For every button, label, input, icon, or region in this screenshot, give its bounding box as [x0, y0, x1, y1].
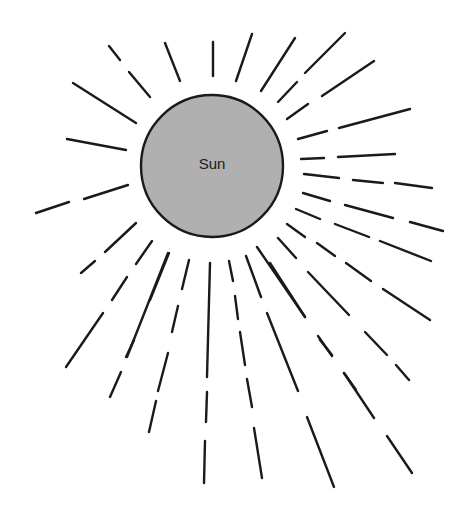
ray-segment [66, 313, 103, 367]
ray-segment [410, 222, 443, 231]
sun-ray [304, 174, 432, 188]
ray-segment [287, 104, 308, 119]
ray-segment [207, 263, 210, 377]
ray-segment [206, 392, 207, 422]
ray-segment [229, 261, 233, 281]
sun-ray [287, 104, 308, 119]
ray-segment [304, 174, 339, 178]
sun-ray [303, 193, 443, 231]
ray-segment [303, 193, 330, 201]
ray-segment [129, 72, 150, 97]
sun-ray [204, 263, 210, 483]
ray-segment [204, 441, 205, 483]
ray-segment [278, 238, 296, 258]
ray-segment [150, 253, 169, 300]
ray-segment [383, 289, 430, 320]
ray-segment [353, 180, 383, 183]
ray-segment [110, 372, 121, 397]
ray-segment [305, 33, 345, 73]
ray-segment [257, 247, 305, 317]
ray-segment [346, 263, 371, 281]
ray-segment [81, 261, 95, 273]
sun-ray [246, 256, 334, 487]
ray-segment [365, 332, 387, 355]
sun-ray [81, 223, 136, 273]
ray-segment [338, 154, 395, 157]
ray-segment [235, 296, 238, 319]
ray-segment [345, 205, 393, 218]
sun-label: Sun [162, 155, 262, 172]
ray-segment [67, 139, 126, 150]
ray-segment [165, 43, 180, 81]
ray-segment [136, 241, 152, 264]
ray-segment [267, 313, 298, 391]
ray-segment [261, 38, 295, 91]
ray-segment [278, 82, 297, 102]
sun-ray [270, 263, 356, 390]
ray-segment [240, 332, 245, 365]
ray-segment [182, 260, 189, 289]
ray-segment [344, 373, 374, 418]
sun-ray [261, 38, 295, 91]
ray-segment [335, 224, 369, 237]
ray-segment [254, 428, 262, 478]
sun-ray [67, 139, 126, 150]
ray-segment [287, 224, 305, 237]
ray-segment [322, 61, 374, 96]
ray-segment [380, 241, 431, 261]
sun-rays-diagram [0, 0, 470, 515]
ray-segment [172, 306, 178, 332]
ray-segment [307, 417, 334, 487]
ray-segment [112, 277, 127, 300]
ray-segment [387, 436, 412, 473]
sun-ray [150, 253, 169, 300]
sun-ray [296, 209, 431, 261]
ray-segment [149, 401, 156, 432]
sun-ray [278, 33, 345, 102]
ray-segment [247, 379, 252, 407]
sun-ray [322, 61, 374, 96]
ray-segment [109, 46, 120, 60]
sun-ray [229, 261, 262, 478]
ray-segment [339, 109, 410, 128]
sun-ray [109, 46, 150, 97]
sun-ray [298, 109, 410, 139]
ray-segment [298, 131, 327, 139]
ray-segment [395, 183, 432, 188]
ray-segment [36, 202, 69, 213]
sun-ray [73, 83, 136, 123]
sun-ray [278, 238, 409, 380]
ray-segment [308, 272, 349, 315]
ray-segment [396, 365, 409, 380]
ray-segment [84, 185, 128, 199]
ray-segment [317, 243, 335, 256]
ray-segment [236, 34, 252, 81]
ray-segment [158, 353, 168, 391]
ray-segment [301, 158, 324, 159]
sun-ray [257, 247, 412, 473]
sun-ray [66, 241, 152, 367]
ray-segment [73, 83, 136, 123]
sun-ray [301, 154, 395, 159]
sun-ray [236, 34, 252, 81]
ray-segment [105, 223, 136, 252]
sun-ray [36, 185, 128, 213]
ray-segment [320, 340, 332, 355]
ray-segment [246, 256, 261, 297]
sun-ray [165, 43, 180, 81]
ray-segment [296, 209, 320, 219]
